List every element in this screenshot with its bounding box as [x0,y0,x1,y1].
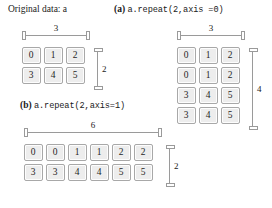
dimension-height-original: 2 [93,48,107,90]
dimension-line [169,145,170,187]
grid-row: 345 [20,65,86,85]
grid-cell: 0 [22,47,41,64]
dimension-width-label-wrap: 3 [177,23,245,33]
dimension-line [97,48,98,90]
grid-cell: 2 [112,144,131,161]
caption-code-a: a.repeat(2,axis =0) [127,5,223,15]
grid-cell: 1 [90,144,109,161]
grid-row: 012 [175,65,241,85]
grid-cell: 2 [66,47,85,64]
grid-cell: 3 [22,67,41,84]
dimension-width-original: 3 [22,27,90,39]
dimension-line [177,35,245,36]
grid-repeat-axis1: 001122334455 [22,142,154,182]
dimension-arrow-bottom [94,86,103,90]
dimension-arrow-top [94,48,103,52]
caption-label-a: (a) [114,4,125,14]
dimension-arrow-top [249,48,258,52]
caption-repeat-axis1: (b) a.repeat(2,axis=1) [20,100,125,112]
grid-cell: 5 [112,164,131,181]
caption-original-data: Original data: a [8,4,67,15]
dimension-width-label: 3 [52,23,61,33]
grid-row: 001122 [22,142,154,162]
grid-cell: 4 [199,87,218,104]
grid-cell: 2 [221,67,240,84]
grid-row: 334455 [22,162,154,182]
grid-row: 012 [175,45,241,65]
grid-cell: 5 [66,67,85,84]
grid-cell: 4 [199,107,218,124]
dimension-arrow-bottom [166,183,175,187]
dimension-height-label: 2 [174,161,179,171]
grid-cell: 3 [46,164,65,181]
dimension-height-label: 4 [257,84,262,94]
dimension-arrow-bottom [249,126,258,130]
dimension-width-label-wrap: 6 [24,120,162,130]
grid-cell: 4 [68,164,87,181]
grid-cell: 2 [134,144,153,161]
dimension-arrow-top [166,145,175,149]
caption-label-b: (b) [20,100,32,110]
grid-row: 345 [175,85,241,105]
grid-cell: 1 [68,144,87,161]
grid-cell: 3 [177,87,196,104]
grid-cell: 3 [177,107,196,124]
dimension-height-axis1: 2 [165,145,179,187]
grid-cell: 5 [134,164,153,181]
grid-cell: 0 [24,144,43,161]
dimension-width-label: 6 [89,120,98,130]
dimension-height-axis0: 4 [248,48,262,130]
caption-original-text: Original data: a [8,4,67,14]
dimension-width-label-wrap: 3 [22,23,90,33]
grid-cell: 5 [221,87,240,104]
grid-cell: 5 [221,107,240,124]
grid-cell: 4 [90,164,109,181]
dimension-width-axis0: 3 [177,27,245,39]
grid-row: 012 [20,45,86,65]
dimension-line [22,35,90,36]
grid-cell: 0 [177,47,196,64]
dimension-width-axis1: 6 [24,124,162,136]
grid-row: 345 [175,105,241,125]
dimension-width-label: 3 [207,23,216,33]
dimension-line [24,132,162,133]
grid-cell: 1 [199,67,218,84]
grid-repeat-axis0: 012012345345 [175,45,241,125]
dimension-line [252,48,253,130]
grid-cell: 0 [46,144,65,161]
grid-cell: 1 [199,47,218,64]
grid-cell: 2 [221,47,240,64]
grid-cell: 0 [177,67,196,84]
caption-repeat-axis0: (a) a.repeat(2,axis =0) [114,4,224,16]
caption-code-b: a.repeat(2,axis=1) [34,101,125,111]
grid-cell: 4 [44,67,63,84]
grid-original-data: 012345 [20,45,86,85]
grid-cell: 3 [24,164,43,181]
grid-cell: 1 [44,47,63,64]
dimension-height-label: 2 [102,64,107,74]
